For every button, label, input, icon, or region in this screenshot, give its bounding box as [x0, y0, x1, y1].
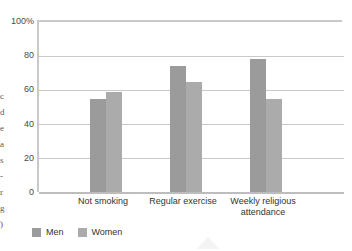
- y-axis-tick-80: 80: [0, 51, 34, 60]
- gridline-80: [39, 56, 344, 57]
- legend-swatch-icon: [78, 228, 87, 237]
- bar-women-weekly-religious-attendance: [266, 99, 282, 193]
- x-axis-label-line: attendance: [208, 207, 318, 218]
- x-axis-label-weekly-religious-attendance: Weekly religious attendance: [208, 196, 318, 218]
- y-axis-tick-20: 20: [0, 154, 34, 163]
- y-axis-tick-0: 0: [0, 188, 34, 197]
- gridline-0-axis: [39, 192, 344, 194]
- legend-item-men: Men: [32, 228, 64, 237]
- scan-artifact-icon: [196, 236, 220, 250]
- bar-women-not-smoking: [106, 92, 122, 192]
- y-axis-tick-60: 60: [0, 85, 34, 94]
- bar-men-weekly-religious-attendance: [250, 59, 266, 192]
- plot-area: [37, 20, 342, 192]
- y-axis-tick-40: 40: [0, 120, 34, 129]
- bar-men-not-smoking: [90, 99, 106, 193]
- legend-item-women: Women: [78, 228, 123, 237]
- bar-women-regular-exercise: [186, 82, 202, 193]
- y-axis-tick-100: 100%: [0, 17, 34, 26]
- legend-swatch-icon: [32, 228, 41, 237]
- x-axis-label-line: Weekly religious: [208, 196, 318, 207]
- legend-label: Men: [46, 228, 64, 237]
- bar-men-regular-exercise: [170, 66, 186, 192]
- bar-chart: 100% 80 60 40 20 0 Not smoking Regular e…: [0, 0, 352, 251]
- legend-label: Women: [92, 228, 123, 237]
- chart-legend: Men Women: [32, 228, 122, 237]
